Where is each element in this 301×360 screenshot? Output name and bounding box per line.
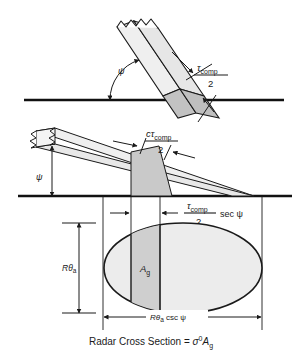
top-tau-comp-fraction: τcomp 2 bbox=[194, 62, 228, 89]
middle-pulse-rule-right bbox=[164, 145, 171, 160]
middle-pulse-leader-left bbox=[113, 141, 137, 146]
middle-panel: ψ cτcomp 2 bbox=[18, 128, 292, 196]
footprint-ellipse bbox=[104, 223, 262, 313]
svg-text:τcomp: τcomp bbox=[187, 200, 208, 214]
vertical-dim-label: Rθa bbox=[62, 263, 77, 274]
middle-angle-label: ψ bbox=[36, 172, 43, 182]
top-angle-label: ψ bbox=[118, 66, 125, 76]
figure-caption: Radar Cross Section = σ0Ag bbox=[89, 335, 213, 350]
horizontal-dim-label: Rθa csc ψ bbox=[150, 313, 186, 323]
middle-compressed-pulse-band bbox=[131, 146, 172, 196]
radar-cross-section-diagram: ψ τcomp 2 ψ bbox=[0, 0, 301, 360]
svg-text:cτcomp: cτcomp bbox=[146, 128, 172, 142]
bottom-panel: Ag Rθa Rθa csc ψ Radar Cross Section = σ… bbox=[62, 220, 262, 350]
svg-text:τcomp: τcomp bbox=[197, 62, 218, 76]
middle-beam-torn-edge-upper bbox=[30, 131, 36, 148]
middle-fraction-denominator: 2 bbox=[158, 144, 163, 155]
projection-sec-psi: sec ψ bbox=[220, 209, 243, 219]
middle-pulse-leader-right bbox=[173, 152, 195, 158]
projection-tau-subscript: comp bbox=[191, 206, 208, 214]
top-panel: ψ τcomp 2 bbox=[24, 19, 284, 122]
middle-tau-subscript: comp bbox=[154, 134, 171, 142]
top-fraction-denominator: 2 bbox=[208, 78, 213, 89]
top-tau-subscript: comp bbox=[201, 68, 218, 76]
top-beam-torn-edge bbox=[117, 19, 158, 28]
